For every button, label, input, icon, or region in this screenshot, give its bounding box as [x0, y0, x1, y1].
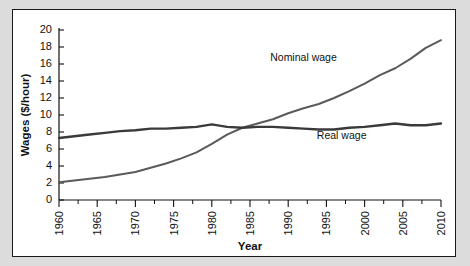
y-tick-label: 16	[40, 57, 52, 69]
x-tick-label: 1960	[53, 211, 65, 235]
y-tick-label: 4	[46, 159, 52, 171]
chart-plot-area: 02468101214161820 1960196519701975198019…	[13, 10, 455, 256]
y-tick-label: 10	[40, 108, 52, 120]
x-tick-label: 1975	[168, 211, 180, 235]
y-tick-label: 14	[40, 74, 52, 86]
y-tick-label: 2	[46, 176, 52, 188]
x-tick-label: 2010	[435, 211, 447, 235]
y-tick-label: 0	[46, 193, 52, 205]
x-tick-label: 2000	[359, 211, 371, 235]
x-tick-label: 1985	[244, 211, 256, 235]
y-tick-label: 20	[40, 23, 52, 35]
x-tick-label: 1970	[129, 211, 141, 235]
y-tick-label: 8	[46, 125, 52, 137]
y-tick-label: 12	[40, 91, 52, 103]
x-axis-title: Year	[238, 240, 263, 252]
x-axis-ticks: 1960196519701975198019851990199520002005…	[53, 200, 447, 235]
chart-figure: 02468101214161820 1960196519701975198019…	[12, 9, 456, 257]
x-tick-label: 1980	[206, 211, 218, 235]
wages-line-chart: 02468101214161820 1960196519701975198019…	[13, 10, 454, 255]
x-tick-label: 1965	[91, 211, 103, 235]
y-axis-ticks: 02468101214161820	[40, 23, 64, 205]
x-tick-label: 1990	[282, 211, 294, 235]
y-axis-title: Wages ($/hour)	[19, 74, 31, 157]
series-label-real-wage: Real wage	[317, 129, 367, 141]
y-tick-label: 6	[46, 142, 52, 154]
x-tick-label: 2005	[397, 211, 409, 235]
x-tick-label: 1995	[320, 211, 332, 235]
series-line-nominal-wage	[59, 40, 441, 182]
data-series-group	[59, 40, 441, 182]
series-label-nominal-wage: Nominal wage	[270, 51, 337, 63]
y-tick-label: 18	[40, 40, 52, 52]
